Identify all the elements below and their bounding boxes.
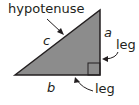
side-c-label: c [43,34,50,47]
right-triangle [15,10,100,75]
side-b-label: b [47,81,55,94]
horizontal-leg-arrowhead-icon [74,77,80,83]
hypotenuse-arrow-line [47,19,61,32]
side-a-label: a [104,26,112,39]
vertical-leg-arrowhead-icon [102,56,108,62]
hypotenuse-label: hypotenuse [8,2,84,15]
horizontal-leg-label: leg [95,82,115,95]
vertical-leg-label: leg [116,38,136,51]
